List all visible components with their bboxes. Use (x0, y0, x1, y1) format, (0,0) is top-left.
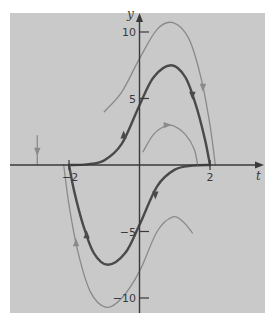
y-axis-label: y (126, 7, 134, 21)
plot-background (10, 13, 265, 313)
y-tick-label: 5 (129, 93, 136, 106)
x-tick-label: −2 (62, 171, 78, 184)
x-tick-label: 2 (207, 171, 214, 184)
y-tick-label: −10 (113, 292, 136, 305)
t-axis-label: t (256, 169, 261, 183)
y-tick-label: 10 (122, 26, 136, 39)
direction-field-plot: −22105−5−10 t y (0, 0, 277, 322)
y-tick-label: −5 (120, 226, 136, 239)
